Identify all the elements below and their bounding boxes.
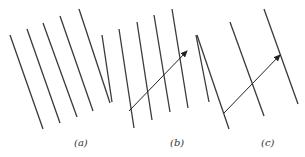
- wavefront-line-a: [60, 16, 93, 111]
- wavefront-line-b: [137, 22, 152, 120]
- propagation-arrow-c: [224, 55, 280, 113]
- panel-label-b: (b): [170, 137, 184, 148]
- wavefront-line-b: [119, 29, 134, 128]
- propagation-arrow-b: [129, 51, 187, 111]
- wavefront-line-c: [197, 35, 229, 129]
- panel-label-c: (c): [261, 137, 274, 148]
- wavefront-line-b: [154, 15, 170, 112]
- parallel-lines: [10, 9, 298, 129]
- wavefront-diagram: [0, 0, 305, 157]
- wavefront-line-a: [10, 35, 43, 129]
- wavefront-line-c: [264, 9, 298, 104]
- panel-label-a: (a): [74, 137, 88, 148]
- wavefront-line-a: [43, 23, 77, 117]
- wavefront-line-a: [27, 29, 60, 123]
- wavefront-line-b: [196, 35, 209, 102]
